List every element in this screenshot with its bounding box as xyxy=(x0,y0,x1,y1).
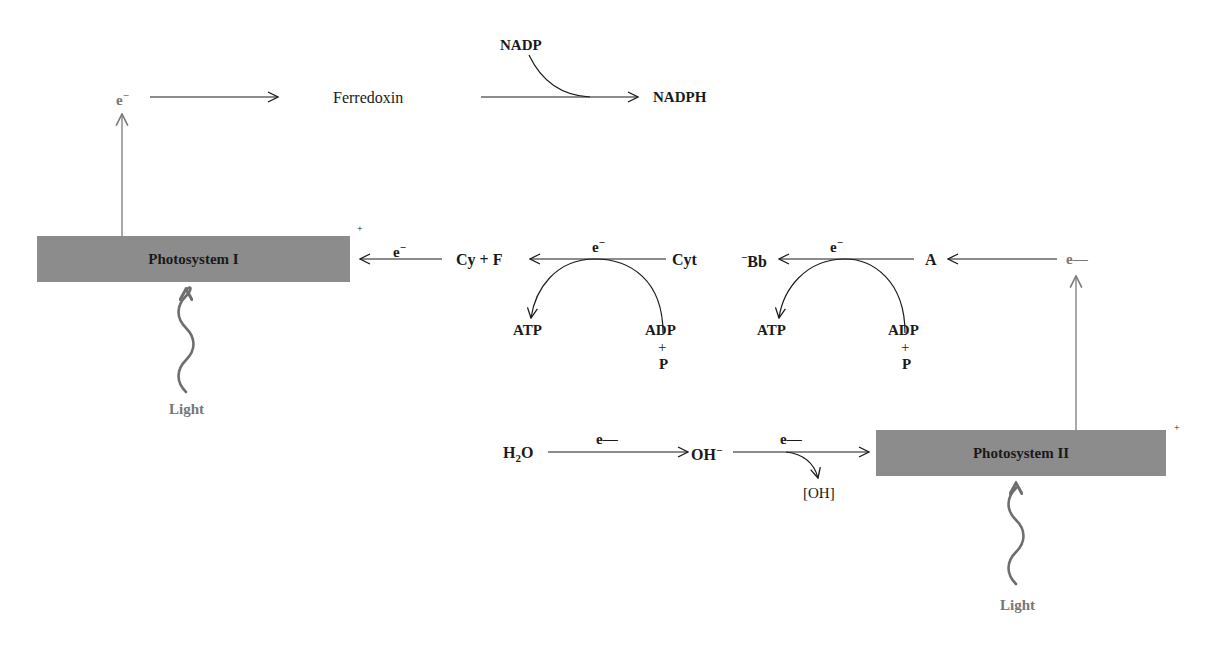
light-wave-ps1 xyxy=(179,288,194,392)
photosystem-1-label: Photosystem I xyxy=(148,251,238,268)
bb-label: −Bb xyxy=(741,252,767,270)
arc-atp1 xyxy=(531,259,663,333)
nadp-label: NADP xyxy=(500,38,542,53)
oh-radical-label: [OH] xyxy=(803,486,835,501)
electron-ps1-in-label: e− xyxy=(393,242,406,260)
electron-h2o-label: e— xyxy=(596,432,618,447)
arc-nadp-join xyxy=(529,55,590,97)
cy-f-label: Cy + F xyxy=(456,252,502,268)
photosystem-1-box: Photosystem I xyxy=(37,236,350,282)
p2-label: P xyxy=(902,357,911,372)
adp2-label: ADP xyxy=(888,323,919,338)
plus1-label: + xyxy=(658,340,666,355)
atp2-label: ATP xyxy=(757,323,786,338)
z-scheme-diagram: e− Ferredoxin NADP NADPH Photosystem I +… xyxy=(0,0,1215,645)
electron-top-label: e− xyxy=(116,90,129,108)
light-ps2-label: Light xyxy=(1000,598,1035,613)
electron-mid2-label: e− xyxy=(830,237,843,255)
atp1-label: ATP xyxy=(513,323,542,338)
cyt-label: Cyt xyxy=(672,252,697,268)
adp1-label: ADP xyxy=(645,323,676,338)
hydroxide-label: OH− xyxy=(691,445,722,463)
light-wave-ps2 xyxy=(1009,488,1024,584)
ps1-charge: + xyxy=(357,224,363,234)
plus2-label: + xyxy=(901,340,909,355)
light-ps1-label: Light xyxy=(169,402,204,417)
electron-right-label: e— xyxy=(1066,252,1088,267)
photosystem-2-box: Photosystem II xyxy=(876,430,1166,476)
arc-oh-release xyxy=(786,452,818,478)
water-label: H2O xyxy=(503,445,533,464)
p1-label: P xyxy=(659,357,668,372)
arc-atp2 xyxy=(779,259,905,333)
photosystem-2-label: Photosystem II xyxy=(973,445,1069,462)
electron-oh-label: e— xyxy=(780,432,802,447)
electron-mid1-label: e− xyxy=(592,237,605,255)
ps2-charge: + xyxy=(1174,423,1180,433)
ferredoxin-label: Ferredoxin xyxy=(333,90,403,106)
nadph-label: NADPH xyxy=(653,90,706,105)
connector-layer xyxy=(0,0,1215,645)
a-label: A xyxy=(925,252,937,268)
